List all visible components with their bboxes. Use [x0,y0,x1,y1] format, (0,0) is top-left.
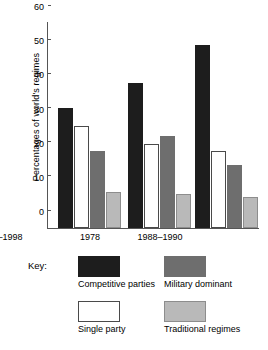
legend-label-military-dominant: Military dominant [164,279,260,289]
bar-single-party-1978[interactable] [74,126,89,229]
y-tick-mark [48,141,51,142]
plot-area: 0 10 20 30 40 50 60 [48,23,258,228]
legend-title: Key: [28,260,47,271]
legend-label-traditional-regimes: Traditional regimes [164,324,260,334]
y-tick-30: 30 [34,99,48,117]
bar-competitive-parties-1978[interactable] [58,108,73,228]
bar-military-dominant-1978[interactable] [90,151,105,228]
black-filled-swatch-icon [78,256,120,277]
y-tick-0: 0 [39,201,48,219]
y-tick-20: 20 [34,133,48,151]
bar-military-dominant-1997-1998[interactable] [227,165,242,228]
bar-competitive-parties-1988-1990[interactable] [128,83,143,228]
bar-single-party-1988-1990[interactable] [144,144,159,228]
y-tick-60: 60 [34,0,48,14]
legend-entry-single-party[interactable]: Single party [78,301,174,334]
y-tick-50: 50 [34,30,48,48]
bar-group-1997-1998 [195,23,258,228]
light-gray-filled-swatch-icon [164,301,206,322]
bar-group-1988-1990 [128,23,191,228]
dark-gray-filled-swatch-icon [164,256,206,277]
y-tick-mark [48,5,51,6]
bar-traditional-regimes-1997-1998[interactable] [243,197,258,228]
legend-label-competitive-parties: Competitive parties [78,279,174,289]
y-tick-40: 40 [34,64,48,82]
y-tick-mark [48,73,51,74]
chart-legend: Key: Competitive parties Military domina… [0,252,268,350]
bar-competitive-parties-1997-1998[interactable] [195,45,210,228]
bar-chart-figure: Percentages of world's regimes 0 10 20 3… [0,0,268,350]
y-tick-mark [48,39,51,40]
bar-single-party-1997-1998[interactable] [211,151,226,228]
x-tick-label-1988-1990: 1988–1990 [137,232,182,242]
legend-entry-traditional-regimes[interactable]: Traditional regimes [164,301,260,334]
legend-entry-military-dominant[interactable]: Military dominant [164,256,260,289]
legend-label-single-party: Single party [78,324,174,334]
white-outlined-swatch-icon [78,301,120,322]
y-tick-mark [48,175,51,176]
y-tick-mark [48,107,51,108]
y-tick-10: 10 [34,167,48,185]
legend-entry-competitive-parties[interactable]: Competitive parties [78,256,174,289]
x-tick-label-1978: 1978 [80,232,100,242]
bar-traditional-regimes-1988-1990[interactable] [176,194,191,228]
y-tick-mark [48,210,51,211]
x-axis-line [47,228,259,229]
x-tick-label-1997-1998: 1997–1998 [0,232,23,242]
bar-traditional-regimes-1978[interactable] [106,192,121,228]
bar-military-dominant-1988-1990[interactable] [160,136,175,228]
bar-group-1978 [58,23,121,228]
